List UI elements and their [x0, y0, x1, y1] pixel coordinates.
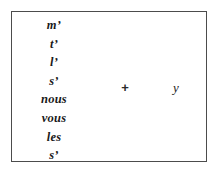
- figure-border-box: m’ t’ l’ s’ nous vous les s’ + y: [11, 11, 207, 162]
- operand-label-y: y: [164, 79, 188, 97]
- plus-operator-symbol: +: [116, 80, 134, 96]
- list-item: l’: [50, 53, 58, 72]
- list-item: m’: [47, 16, 61, 35]
- list-item: t’: [50, 35, 58, 54]
- figure-root: m’ t’ l’ s’ nous vous les s’ + y: [0, 0, 217, 176]
- list-item: nous: [41, 90, 67, 109]
- list-item: les: [47, 128, 62, 147]
- list-item: vous: [42, 109, 66, 128]
- pronoun-column: m’ t’ l’ s’ nous vous les s’: [12, 16, 96, 165]
- list-item: s’: [49, 72, 58, 91]
- list-item: s’: [49, 146, 58, 165]
